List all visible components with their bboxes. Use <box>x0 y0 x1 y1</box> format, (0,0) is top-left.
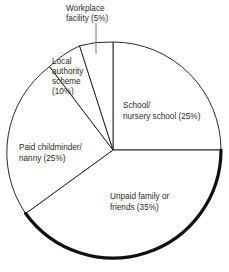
pie-chart-svg: Workplace facility (5%) Local authority … <box>0 0 229 272</box>
pie-label-workplace-facility: Workplace facility (5%) <box>66 4 109 23</box>
pie-chart-figure: Workplace facility (5%) Local authority … <box>0 0 229 272</box>
